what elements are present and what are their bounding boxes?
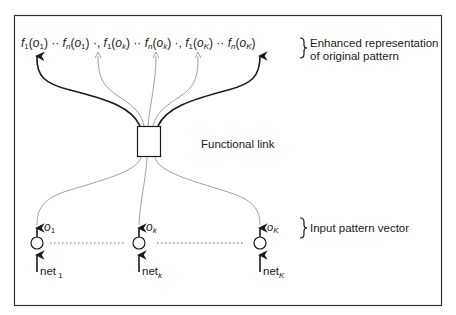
enhanced-label-line2: of original pattern — [310, 50, 399, 62]
neuron-circle — [254, 237, 266, 249]
term-fn-oK: fn(oK) — [228, 36, 256, 51]
svg-text:ok: ok — [146, 220, 158, 235]
term-fn-ok: fn(ok) — [145, 36, 171, 51]
output-connections — [37, 52, 260, 126]
svg-text:o1: o1 — [44, 220, 56, 235]
input-node-1: o1 net 1 — [31, 220, 63, 280]
enhanced-label-line1: Enhanced representation — [310, 37, 439, 49]
input-pattern-label: Input pattern vector — [310, 222, 409, 234]
input-brace — [300, 218, 307, 238]
term-f1-oK: f1(oK) — [185, 36, 213, 51]
functional-link-diagram: f1(o1) ·· fn(o1) ·, f1(ok) ·· fn(ok) ·, … — [0, 0, 456, 315]
svg-text:netk: netk — [142, 265, 163, 280]
svg-text:f1(o1) ·· fn(o1) ·, f1(ok) ··: f1(o1) ·· fn(o1) ·, f1(ok) ·· fn(ok) ·, … — [21, 36, 256, 51]
input-node-k: ok netk — [133, 220, 163, 280]
svg-text:netK: netK — [263, 265, 285, 280]
enhanced-output-terms: f1(o1) ·· fn(o1) ·, f1(ok) ·· fn(ok) ·, … — [21, 36, 256, 51]
svg-text:net 1: net 1 — [40, 265, 63, 280]
output-brace — [300, 38, 307, 58]
term-fn-o1: fn(o1) — [63, 36, 90, 51]
term-f1-o1: f1(o1) — [21, 36, 48, 51]
input-connections — [37, 157, 260, 225]
input-node-K: oK netK — [254, 221, 285, 280]
functional-link-label: Functional link — [201, 138, 275, 150]
neuron-circle — [133, 237, 145, 249]
functional-link-box — [138, 127, 161, 157]
svg-text:oK: oK — [267, 221, 279, 235]
term-f1-ok: f1(ok) — [104, 36, 130, 51]
neuron-circle — [31, 237, 43, 249]
